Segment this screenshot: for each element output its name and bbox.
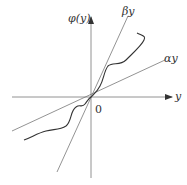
origin-label: 0 (95, 104, 102, 115)
alpha-line (12, 60, 165, 131)
diagram-graphics (0, 0, 187, 185)
x-axis-label: y (175, 91, 181, 102)
phi-curve (24, 33, 145, 140)
sector-diagram: φ(y) βy αy y 0 (0, 0, 187, 185)
alpha-line-label: αy (164, 53, 178, 64)
beta-line-label: βy (122, 6, 135, 17)
y-axis-label: φ(y) (68, 13, 91, 24)
